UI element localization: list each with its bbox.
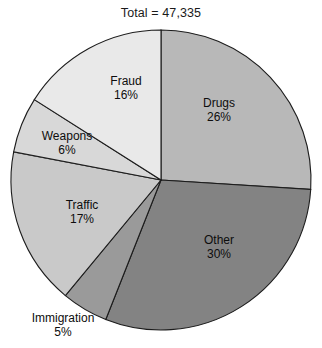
pie-slice-group xyxy=(11,30,311,330)
pie-chart-svg xyxy=(0,0,322,348)
pie-slice-drugs[interactable] xyxy=(161,30,311,189)
pie-chart-figure: Total = 47,335 Drugs26%Other30%Immigrati… xyxy=(0,0,322,348)
